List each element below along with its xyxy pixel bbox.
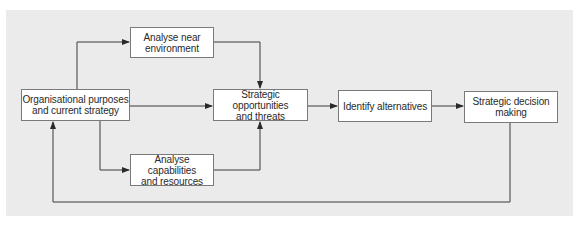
node-label-line: making [472,107,549,118]
node-strategic-decision-making: Strategic decision making [464,91,558,123]
node-label-line: Organisational purposes [22,94,128,105]
node-analyse-near-environment: Analyse near environment [130,27,214,58]
edge-org-to-near [77,42,129,89]
node-organisational-purposes: Organisational purposes and current stra… [21,89,130,121]
node-label-line: environment [143,43,200,54]
node-label-line: Strategic opportunities [214,89,307,111]
edge-dec-to-org-feedback [53,122,510,202]
node-label-line: Analyse near [143,32,200,43]
node-label-line: Strategic decision [472,96,549,107]
node-label-line: Identify alternatives [343,101,427,112]
node-label-line: and current strategy [22,105,128,116]
edge-cap-to-opp [213,122,260,170]
edge-org-to-cap [100,121,129,170]
node-label-line: and resources [131,176,213,187]
node-label-line: and threats [214,111,307,122]
node-label-line: Analyse capabilities [131,154,213,176]
edge-near-to-opp [213,42,260,88]
node-analyse-capabilities: Analyse capabilities and resources [130,154,214,186]
node-strategic-opportunities: Strategic opportunities and threats [213,89,308,121]
node-identify-alternatives: Identify alternatives [338,90,432,122]
